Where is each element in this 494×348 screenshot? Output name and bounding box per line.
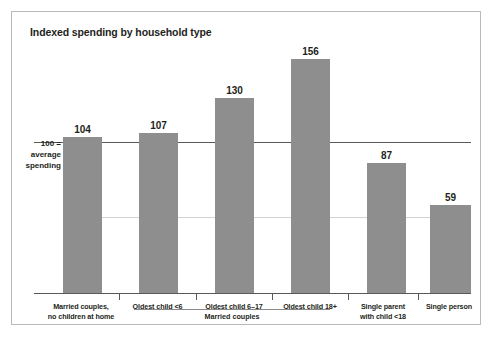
bar-married-no-children (63, 137, 102, 293)
bar-value-label: 156 (291, 46, 330, 57)
bar-value-label: 130 (215, 85, 254, 96)
x-axis-line (34, 293, 471, 294)
category-label-line: Single parent (348, 302, 418, 312)
group-bracket-label: Married couples (134, 312, 330, 321)
bar-single-person (430, 205, 471, 294)
y-axis-caption-line-2: average (12, 149, 61, 160)
bar-value-label: 107 (139, 120, 178, 131)
category-label-single-person: Single person (418, 302, 480, 312)
y-axis-caption: 100 = average spending (12, 138, 61, 171)
bar-value-label: 59 (430, 192, 471, 203)
axis-tick (272, 294, 273, 300)
category-label-line: no children at home (43, 312, 119, 322)
axis-tick (348, 294, 349, 300)
category-label-line: Oldest child <6 (119, 302, 196, 312)
category-label-oldest-child-18-plus: Oldest child 18+ (272, 302, 348, 312)
category-label-line: with child <18 (348, 312, 418, 322)
bar-value-label: 104 (63, 124, 102, 135)
gridline-50 (63, 217, 471, 218)
category-label-line: Oldest child 18+ (272, 302, 348, 312)
category-label-line: Single person (418, 302, 480, 312)
category-label-line: Oldest child 6–17 (196, 302, 272, 312)
y-axis-caption-line-1: 100 = (12, 138, 61, 149)
bar-single-parent-child-under-18 (367, 163, 406, 294)
bar-oldest-child-under-6 (139, 133, 178, 294)
bar-oldest-child-6-17 (215, 98, 254, 293)
category-label-line: Married couples, (43, 302, 119, 312)
bar-value-label: 87 (367, 150, 406, 161)
category-label-single-parent: Single parent with child <18 (348, 302, 418, 322)
plot-area: 104 107 130 156 87 59 (63, 22, 471, 293)
axis-tick (119, 294, 120, 300)
y-axis-caption-line-3: spending (12, 160, 61, 171)
bar-oldest-child-18-plus (291, 59, 330, 293)
category-label-oldest-child-under-6: Oldest child <6 (119, 302, 196, 312)
category-label-married-no-children: Married couples, no children at home (43, 302, 119, 322)
axis-tick (196, 294, 197, 300)
axis-tick (418, 294, 419, 300)
category-label-oldest-child-6-17: Oldest child 6–17 (196, 302, 272, 312)
group-bracket-line (134, 309, 330, 310)
chart-figure: Indexed spending by household type 104 1… (11, 11, 481, 325)
